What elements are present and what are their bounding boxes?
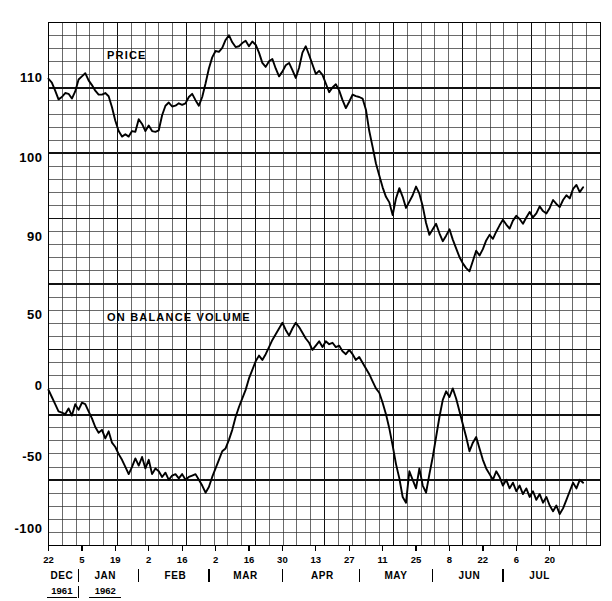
y-tick-label: 110 — [20, 70, 42, 85]
x-tick-label: 30 — [277, 554, 288, 565]
x-tick-label: 5 — [79, 554, 85, 565]
x-tick-label: 6 — [514, 554, 519, 565]
x-month-label: DEC — [50, 570, 73, 581]
x-month-label: MAR — [233, 570, 258, 581]
x-tick-label: 20 — [544, 554, 555, 565]
obv-panel-annotation: ON BALANCE VOLUME — [107, 311, 251, 323]
x-tick-label: 16 — [177, 554, 188, 565]
x-tick-label: 8 — [447, 554, 452, 565]
x-tick-label: 2 — [146, 554, 151, 565]
x-tick-label: 19 — [110, 554, 121, 565]
stock-chart-svg: 90100110-100-50050 225192162163013271125… — [0, 0, 612, 601]
x-tick-label: 16 — [244, 554, 255, 565]
price-panel-annotation: PRICE — [107, 49, 147, 61]
x-tick-label: 22 — [478, 554, 489, 565]
y-tick-label: 100 — [19, 150, 42, 165]
y-tick-label: -100 — [14, 521, 42, 536]
y-tick-label: 50 — [27, 307, 42, 322]
figure-background — [0, 0, 612, 601]
x-year-label: 1962 — [95, 585, 116, 596]
x-tick-label: 22 — [43, 554, 54, 565]
x-tick-label: 25 — [411, 554, 422, 565]
x-month-label: MAY — [384, 570, 407, 581]
x-month-label: JAN — [94, 570, 116, 581]
x-tick-label: 11 — [378, 554, 389, 565]
x-month-label: FEB — [165, 570, 187, 581]
y-tick-label: 90 — [27, 229, 42, 244]
x-month-label: APR — [311, 570, 334, 581]
chart-figure: 90100110-100-50050 225192162163013271125… — [0, 0, 612, 601]
x-tick-label: 13 — [311, 554, 322, 565]
y-tick-label: -50 — [22, 449, 42, 464]
x-tick-label: 2 — [213, 554, 218, 565]
x-month-label: JUL — [529, 570, 550, 581]
x-year-label: 1961 — [51, 585, 73, 596]
x-month-label: JUN — [459, 570, 481, 581]
y-tick-label: 0 — [35, 378, 43, 393]
x-tick-label: 27 — [344, 554, 355, 565]
